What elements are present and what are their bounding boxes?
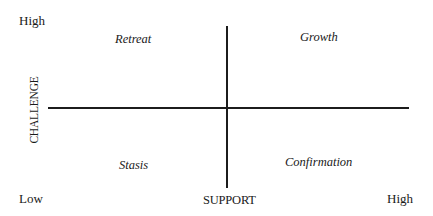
quadrant-stasis: Stasis (119, 158, 148, 173)
challenge-high-label: High (19, 13, 45, 29)
challenge-axis-line (226, 26, 228, 188)
support-low-label: Low (19, 191, 43, 207)
support-axis-title: SUPPORT (203, 193, 256, 208)
support-high-label: High (387, 191, 413, 207)
quadrant-confirmation: Confirmation (285, 155, 352, 170)
quadrant-retreat: Retreat (115, 32, 151, 47)
challenge-axis-title: CHALLENGE (28, 76, 40, 143)
quadrant-growth: Growth (300, 30, 338, 45)
support-axis-line (48, 107, 409, 109)
